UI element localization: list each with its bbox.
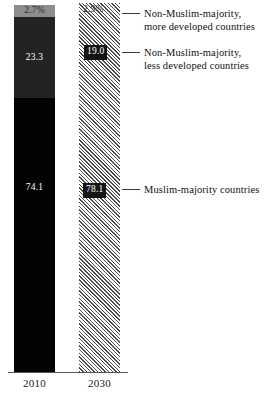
axis-line (8, 372, 128, 373)
bar-2010-label-less-developed: 23.3 (26, 53, 43, 63)
legend-label-more-developed: Non-Muslim-majority, more developed coun… (144, 7, 262, 33)
bar-2030-segment-muslim-majority[interactable] (79, 84, 120, 372)
bar-2010-segment-muslim-majority[interactable]: 74.1 (14, 98, 55, 372)
legend-leader-muslim-majority (122, 189, 140, 190)
bar-2010-segment-more-developed[interactable]: 2.7% (14, 5, 55, 17)
bar-2010-label-more-developed: 2.7% (24, 6, 45, 16)
axis-tick-2010: 2010 (7, 378, 62, 389)
legend-leader-less-developed (122, 52, 140, 53)
stacked-bar-chart: 2.7% 23.3 74.1 2.9% 19.0 78.1 2010 2030 … (0, 0, 264, 394)
bar-2010-label-muslim-majority: 74.1 (26, 183, 43, 193)
legend-label-less-developed: Non-Muslim-majority, less developed coun… (144, 46, 262, 72)
axis-tick-2030: 2030 (72, 378, 127, 389)
bar-2010[interactable]: 2.7% 23.3 74.1 (14, 5, 55, 372)
legend-leader-more-developed (122, 13, 140, 14)
bar-2030-label-more-developed: 2.9% (83, 5, 104, 15)
bar-2030-label-muslim-majority: 78.1 (83, 183, 106, 198)
legend-label-muslim-majority: Muslim-majority countries (144, 183, 262, 196)
bar-2030-label-less-developed: 19.0 (84, 45, 107, 60)
bar-2010-segment-less-developed[interactable]: 23.3 (14, 17, 55, 98)
